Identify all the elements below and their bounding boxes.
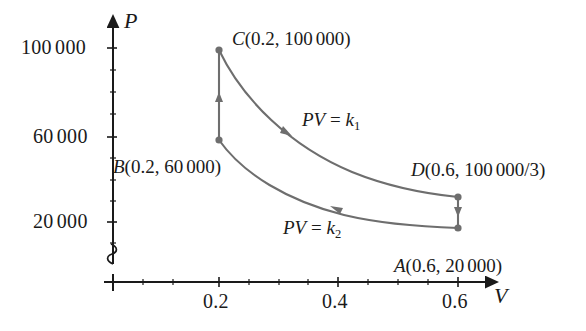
pv-diagram-figure: P V 100000 60000 20000 0.2 0.4 0.6 C(0.2… (0, 0, 586, 331)
y-tick-label-100000: 100000 (21, 37, 86, 57)
x-tick-label-0.2: 0.2 (203, 291, 229, 311)
curve-label-k2: PV = k2 (283, 218, 341, 240)
point-label-D: D(0.6, 100000/3) (411, 160, 545, 179)
y-axis-label-P: P (124, 10, 137, 32)
arrow-c-to-d (280, 126, 292, 136)
curve-label-k1: PV = k1 (302, 110, 360, 132)
y-tick-label-20000: 20000 (33, 211, 88, 231)
point-marker-A (454, 224, 461, 231)
point-label-A: A(0.6, 20000) (394, 256, 502, 275)
point-marker-C (215, 46, 222, 53)
x-tick-label-0.4: 0.4 (322, 291, 348, 311)
y-tick-label-60000: 60000 (33, 126, 88, 146)
point-label-B: B(0.2, 60000) (113, 157, 221, 176)
point-marker-D (454, 193, 461, 200)
x-tick-label-0.6: 0.6 (442, 291, 468, 311)
x-axis-label-V: V (494, 285, 507, 307)
point-marker-B (215, 136, 222, 143)
isotherm-lower-curve (219, 140, 458, 228)
arrow-b-to-c (215, 92, 223, 102)
arrow-d-to-a (454, 207, 462, 217)
point-label-C: C(0.2, 100000) (232, 29, 351, 48)
